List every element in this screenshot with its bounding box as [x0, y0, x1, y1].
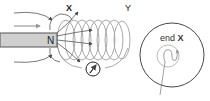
coil	[57, 20, 130, 68]
inset-title: end X	[160, 33, 184, 43]
coil-end-y-label: Y	[125, 3, 131, 13]
compass-icon	[86, 62, 100, 76]
magnet-coil-diagram: N X Y end X	[0, 0, 210, 101]
north-pole-label: N	[47, 35, 54, 46]
coil-end-x-label: X	[66, 3, 72, 13]
